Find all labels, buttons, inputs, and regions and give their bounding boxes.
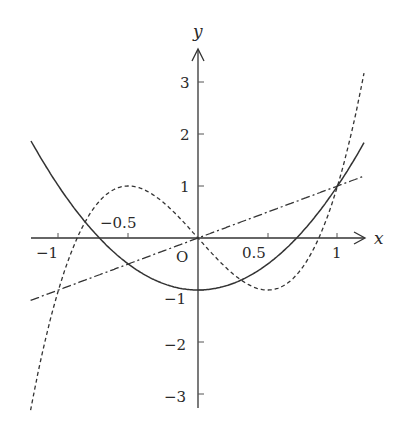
y-tick-label: 2: [180, 126, 190, 144]
x-tick-label: 1: [332, 244, 342, 262]
cubic-4x3-minus-3x: [31, 73, 364, 410]
x-tick-label: −1: [36, 244, 58, 262]
y-tick-label: −3: [164, 388, 186, 406]
x-tick-label: 0.5: [242, 244, 266, 262]
function-plot: y x O −1 −0.5 0.5 1 3 2 1 −1 −2 −3: [0, 0, 408, 433]
x-tick-label: −0.5: [100, 214, 136, 232]
y-tick-label: −1: [164, 290, 186, 308]
y-axis-label: y: [192, 21, 203, 41]
x-axis-label: x: [374, 228, 384, 248]
y-tick-label: 1: [180, 178, 190, 196]
axes: [31, 49, 365, 408]
origin-label: O: [176, 248, 188, 266]
y-tick-label: −2: [164, 336, 186, 354]
y-tick-label: 3: [180, 74, 190, 92]
